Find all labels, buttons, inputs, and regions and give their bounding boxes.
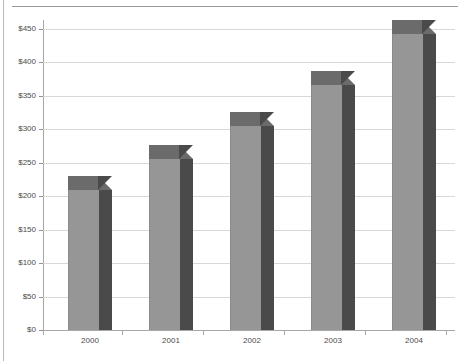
bar-2003 [311,0,355,361]
x-axis-separator [365,331,366,335]
bar-2001 [149,0,193,361]
x-axis-tick-label-2004: 2004 [394,337,434,345]
bar-side-face [260,126,274,330]
x-axis-separator [122,331,123,335]
x-axis-separator [203,331,204,335]
bar-side-face [179,159,193,330]
x-axis-separator [43,331,44,335]
bar-side-bevel [98,176,112,190]
x-axis-tick-label-2002: 2002 [232,337,272,345]
bar-side-bevel [341,71,355,85]
x-axis-separator [446,331,447,335]
x-axis-separator [284,331,285,335]
bar-front-face [149,159,180,330]
bar-2000 [68,0,112,361]
bar-side-bevel [179,145,193,159]
bar-top-face [392,20,422,34]
plot-area [0,0,466,361]
bar-top-face [149,145,179,159]
bar-side-face [98,190,112,330]
bar-top-face [230,112,260,126]
bar-2004 [392,0,436,361]
bar-2002 [230,0,274,361]
bar-side-face [422,34,436,330]
bar-chart-figure: $0$50$100$150$200$250$300$350$400$450 20… [0,0,466,361]
bar-top-face [68,176,98,190]
bar-side-face [341,85,355,330]
bar-front-face [230,126,261,330]
bar-front-face [311,85,342,330]
x-axis-tick-label-2003: 2003 [313,337,353,345]
bar-side-bevel [422,20,436,34]
bar-front-face [392,34,423,330]
x-axis-tick-label-2000: 2000 [70,337,110,345]
bar-front-face [68,190,99,330]
x-axis-tick-label-2001: 2001 [151,337,191,345]
bar-top-face [311,71,341,85]
bar-side-bevel [260,112,274,126]
